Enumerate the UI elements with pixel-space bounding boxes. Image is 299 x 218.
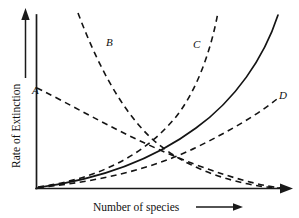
curve-d-path (38, 99, 277, 188)
solid-curve-path (38, 15, 278, 188)
curve-label-b: B (106, 36, 113, 48)
curve-c-path (38, 12, 218, 187)
axes-group (21, 8, 293, 193)
curve-label-d: D (278, 89, 287, 101)
curve-label-a: A (31, 84, 39, 96)
x-axis-title: Number of species (93, 201, 180, 214)
curve-label-c: C (193, 38, 201, 50)
curves-group (37, 12, 280, 188)
chart-canvas: A B C D Rate of Extinction Number of spe… (0, 0, 299, 218)
x-axis-arrow-icon (280, 184, 293, 194)
curve-a-path (37, 88, 280, 188)
extinction-rate-chart: A B C D Rate of Extinction Number of spe… (0, 0, 299, 218)
x-axis-title-arrow-icon (196, 203, 243, 211)
y-axis-arrow-icon (21, 8, 29, 78)
y-axis-title: Rate of Extinction (10, 83, 22, 168)
